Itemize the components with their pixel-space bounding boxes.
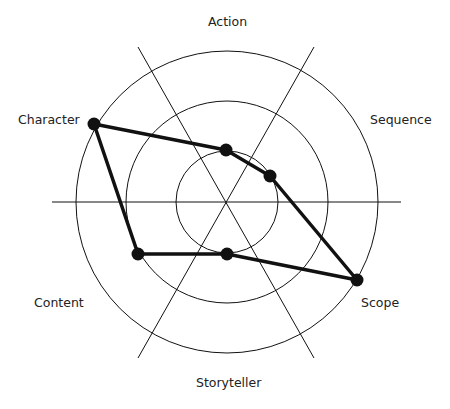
point-sequence bbox=[264, 170, 277, 183]
label-action: Action bbox=[208, 14, 247, 29]
point-scope bbox=[351, 274, 364, 287]
label-storyteller: Storyteller bbox=[196, 375, 261, 390]
label-sequence: Sequence bbox=[370, 112, 432, 127]
point-storyteller bbox=[221, 248, 234, 261]
point-action bbox=[220, 144, 233, 157]
label-content: Content bbox=[34, 295, 84, 310]
radar-diagram bbox=[0, 0, 450, 409]
point-content bbox=[132, 248, 145, 261]
point-character bbox=[88, 118, 101, 131]
label-scope: Scope bbox=[361, 295, 399, 310]
label-character: Character bbox=[18, 112, 80, 127]
